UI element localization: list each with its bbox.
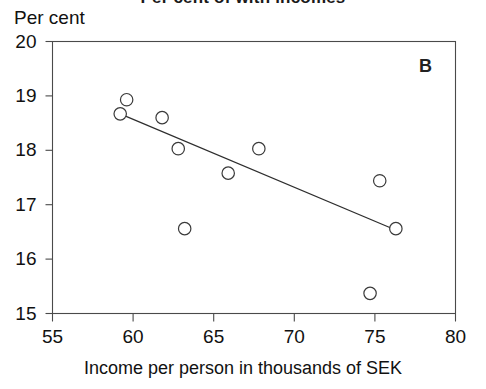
x-tick-label: 60 [113, 326, 153, 348]
axis-ticks [46, 42, 456, 322]
data-point [178, 222, 190, 234]
chart-figure: Per cent of with incomes Per cent B Inco… [0, 0, 486, 389]
x-tick-label: 65 [194, 326, 234, 348]
axis-frame [53, 42, 456, 314]
axes [53, 42, 456, 314]
x-axis-title: Income per person in thousands of SEK [0, 358, 486, 379]
data-point [364, 287, 376, 299]
y-tick-label: 17 [0, 194, 37, 216]
data-point [222, 167, 234, 179]
x-tick-label: 75 [355, 326, 395, 348]
data-point [120, 94, 132, 106]
x-tick-label: 55 [33, 326, 73, 348]
plot-canvas [0, 0, 486, 389]
data-point [374, 175, 386, 187]
x-tick-label: 80 [436, 326, 476, 348]
y-tick-label: 19 [0, 85, 37, 107]
y-tick-label: 20 [0, 31, 37, 53]
y-tick-label: 15 [0, 303, 37, 325]
regression-line [120, 114, 397, 231]
data-point [172, 142, 184, 154]
data-point [114, 108, 126, 120]
x-tick-label: 70 [274, 326, 314, 348]
data-point [390, 222, 402, 234]
data-point [253, 142, 265, 154]
data-point [156, 111, 168, 123]
panel-label: B [419, 56, 432, 77]
y-axis-title: Per cent [14, 8, 85, 28]
data-points [114, 94, 402, 300]
trendline [120, 114, 397, 231]
y-tick-label: 16 [0, 248, 37, 270]
y-tick-label: 18 [0, 139, 37, 161]
